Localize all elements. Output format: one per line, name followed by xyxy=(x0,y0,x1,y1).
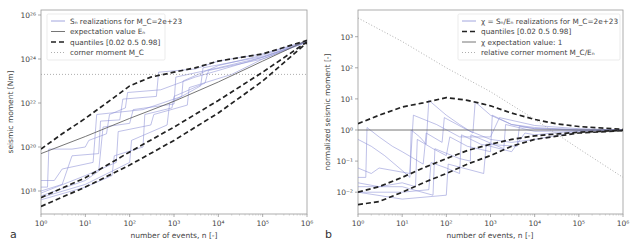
x-tick-label: 10⁵ xyxy=(573,219,586,228)
legend-label: quantiles [0.02 0.5 0.98] xyxy=(70,38,160,47)
y-tick-label: 10²⁶ xyxy=(20,11,36,20)
a-series-realization-5 xyxy=(41,42,307,193)
panel-b-label: b xyxy=(325,228,332,241)
legend-label: χ expectation value: 1 xyxy=(481,38,562,47)
a-series-realization-7 xyxy=(41,42,307,198)
x-tick-label: 10⁵ xyxy=(256,219,269,228)
panel-a-label: a xyxy=(10,228,17,241)
b-series-realization-2 xyxy=(358,115,623,187)
b-series-quantile-0-98 xyxy=(358,98,623,130)
y-tick-label: 10⁻¹ xyxy=(336,157,353,166)
y-tick-label: 10²² xyxy=(20,99,36,108)
panel-a: 10⁰10¹10²10³10⁴10⁵10⁶10¹⁸10²⁰10²²10²⁴10²… xyxy=(6,10,313,241)
x-tick-label: 10⁴ xyxy=(528,219,541,228)
y-tick-label: 10²⁴ xyxy=(20,55,36,64)
y-tick-label: 10¹⁸ xyxy=(20,187,36,196)
y-tick-label: 10¹ xyxy=(340,95,353,104)
figure: 10⁰10¹10²10³10⁴10⁵10⁶10¹⁸10²⁰10²²10²⁴10²… xyxy=(0,0,636,245)
x-tick-label: 10³ xyxy=(168,219,181,228)
legend-label: relative corner moment M_C/Eₙ xyxy=(481,48,595,57)
b-series-realization-7 xyxy=(358,127,623,200)
legend-label: Sₙ realizations for M_C=2e+23 xyxy=(70,17,183,26)
x-tick-label: 10⁶ xyxy=(301,219,314,228)
x-tick-label: 10¹ xyxy=(396,219,409,228)
legend-label: quantiles [0.02 0.5 0.98] xyxy=(481,27,571,36)
x-tick-label: 10⁴ xyxy=(212,219,225,228)
y-tick-label: 10²⁰ xyxy=(20,143,36,152)
y-tick-label: 10⁰ xyxy=(340,126,353,135)
x-tick-label: 10³ xyxy=(484,219,497,228)
x-tick-label: 10¹ xyxy=(79,219,92,228)
panel-b-ylabel: normalized seismic moment [-] xyxy=(323,53,332,170)
panel-a-ylabel: seismic moment [Nm] xyxy=(6,70,15,153)
y-tick-label: 10² xyxy=(340,64,353,73)
panel-b: 10⁰10¹10²10³10⁴10⁵10⁶10⁻²10⁻¹10⁰10¹10²10… xyxy=(323,10,629,241)
panel-b-xlabel: number of events, n [-] xyxy=(446,231,533,240)
legend-label: χ = Sₙ/Eₙ realizations for M_C=2e+23 xyxy=(481,17,618,26)
a-series-realization-2 xyxy=(41,42,307,196)
y-tick-label: 10³ xyxy=(340,33,353,42)
b-series-realization-1 xyxy=(358,100,623,177)
legend-label: expectation value Eₙ xyxy=(70,27,145,36)
panel-b-legend: χ = Sₙ/Eₙ realizations for M_C=2e+23quan… xyxy=(458,14,620,60)
x-tick-label: 10⁰ xyxy=(35,219,48,228)
y-tick-label: 10⁻² xyxy=(336,188,353,197)
panel-a-series xyxy=(41,40,307,206)
a-series-realization-1 xyxy=(41,41,307,191)
panel-a-xlabel: number of events, n [-] xyxy=(130,231,217,240)
b-series-quantile-0-02 xyxy=(358,131,623,205)
legend-label: corner moment M_C xyxy=(70,48,144,57)
b-series-realization-5 xyxy=(358,125,623,196)
a-series-realization-6 xyxy=(41,41,307,180)
x-tick-label: 10² xyxy=(440,219,453,228)
x-tick-label: 10² xyxy=(123,219,136,228)
a-series-quantile-0-5 xyxy=(41,42,307,198)
x-tick-label: 10⁶ xyxy=(617,219,630,228)
panel-a-legend: Sₙ realizations for M_C=2e+23expectation… xyxy=(47,14,183,60)
x-tick-label: 10⁰ xyxy=(352,219,365,228)
